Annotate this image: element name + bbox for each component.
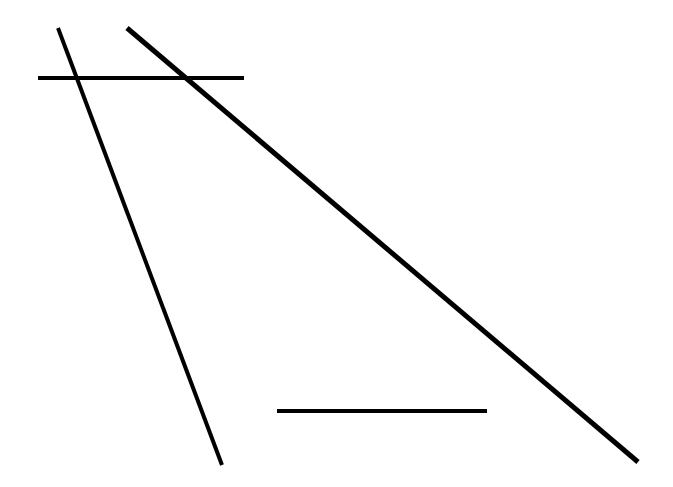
figure-canvas (0, 0, 673, 487)
line-figure-svg (0, 0, 673, 487)
figure-background (0, 0, 673, 487)
